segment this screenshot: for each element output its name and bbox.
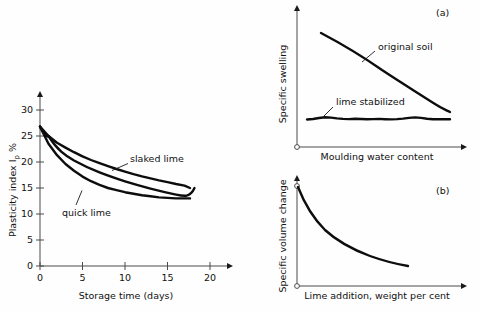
left-chart-y-axis-title-group: Plasticity index Ip % xyxy=(7,143,21,237)
left-chart-xtick-10: 10 xyxy=(119,272,131,283)
panel-b-x-axis-title: Lime addition, weight per cent xyxy=(304,290,450,301)
svg-text:Plasticity index Ip %: Plasticity index Ip % xyxy=(7,143,21,237)
left-chart-ytick-30: 30 xyxy=(21,104,33,115)
left-chart-ytick-5: 5 xyxy=(27,234,33,245)
left-chart-xtick-15: 15 xyxy=(161,272,173,283)
panel-a-x-axis-title: Moulding water content xyxy=(321,151,434,162)
specific-swelling-chart: Specific swelling Moulding water content… xyxy=(277,7,462,162)
scientific-figure: 0 5 10 15 20 25 30 0 5 10 15 20 Plastici… xyxy=(0,0,479,312)
left-chart-ytick-25: 25 xyxy=(21,130,33,141)
panel-b-y-axis-title: Specific volume change xyxy=(277,179,288,292)
left-chart-ytick-15: 15 xyxy=(21,182,33,193)
left-chart-y-axis-title-unit: % xyxy=(7,143,18,152)
panel-a-y-axis-title: Specific swelling xyxy=(277,45,288,124)
left-chart-x-axis-title: Storage time (days) xyxy=(79,290,174,301)
figure-root: 0 5 10 15 20 25 30 0 5 10 15 20 Plastici… xyxy=(0,0,479,312)
curve-label-lime-stabilized: lime stabilized xyxy=(336,96,405,107)
curve-volume-change xyxy=(298,187,408,266)
panel-a-tag: (a) xyxy=(436,7,449,18)
left-chart-xtick-0: 0 xyxy=(37,272,43,283)
left-chart-ytick-0: 0 xyxy=(27,260,33,271)
panel-b-origin-marker xyxy=(295,284,300,289)
leader-quick-lime xyxy=(76,191,82,206)
left-chart-xtick-20: 20 xyxy=(204,272,216,283)
leader-lime-stabilized xyxy=(324,107,333,116)
left-chart-ytick-20: 20 xyxy=(21,156,33,167)
curve-label-slaked-lime: slaked lime xyxy=(130,153,184,164)
panel-a-origin-marker xyxy=(295,145,300,150)
left-chart-y-axis-title: Plasticity index I xyxy=(7,159,18,237)
plasticity-index-chart: 0 5 10 15 20 25 30 0 5 10 15 20 Plastici… xyxy=(7,96,228,301)
specific-volume-change-chart: Specific volume change Lime addition, we… xyxy=(277,179,462,301)
curve-label-original-soil: original soil xyxy=(378,41,433,52)
left-chart-ytick-10: 10 xyxy=(21,208,33,219)
panel-b-tag: (b) xyxy=(436,185,449,196)
left-chart-xtick-5: 5 xyxy=(79,272,85,283)
curve-lime-stabilized xyxy=(307,117,450,119)
curve-label-quick-lime: quick lime xyxy=(62,207,111,218)
